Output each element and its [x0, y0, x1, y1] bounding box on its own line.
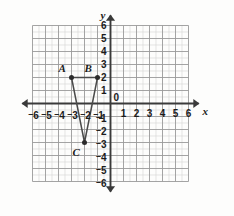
x-tick-label-1: 1	[121, 109, 127, 119]
x-tick-label-neg3: –3	[67, 109, 78, 121]
x-axis-label: x	[203, 106, 209, 117]
coordinate-plane: –6–5–4–3–2–1123456654321–1–2–3–4–5–60xyA…	[0, 0, 234, 216]
x-tick-label-6: 6	[186, 109, 192, 119]
x-tick-label-neg4: –4	[54, 109, 65, 121]
x-tick-label-5: 5	[173, 109, 179, 119]
x-tick-label-4: 4	[160, 109, 166, 119]
origin-label: 0	[114, 93, 120, 103]
vertex-point-a	[69, 75, 74, 80]
point-label-c: C	[73, 147, 80, 158]
y-tick-label-3: 3	[101, 60, 107, 70]
x-tick-label-neg5: –5	[41, 109, 52, 121]
y-tick-label-1: 1	[101, 86, 107, 96]
y-tick-label-neg1: –1	[96, 112, 107, 124]
axes	[22, 15, 200, 193]
y-tick-label-neg4: –4	[96, 151, 107, 163]
point-label-b: B	[85, 63, 92, 74]
x-tick-label-2: 2	[134, 109, 140, 119]
x-tick-label-neg6: –6	[28, 109, 39, 121]
y-tick-label-5: 5	[101, 34, 107, 44]
vertex-point-c	[82, 140, 87, 145]
x-tick-label-3: 3	[147, 109, 153, 119]
y-tick-label-neg2: –2	[96, 125, 107, 137]
y-tick-label-neg6: –6	[96, 177, 107, 189]
y-tick-label-6: 6	[101, 21, 107, 31]
vertex-point-b	[95, 75, 100, 80]
y-tick-label-neg5: –5	[96, 164, 107, 176]
y-tick-label-2: 2	[101, 73, 107, 83]
y-axis-label: y	[101, 10, 106, 21]
x-tick-label-neg2: –2	[80, 109, 91, 121]
point-label-a: A	[59, 63, 66, 74]
y-tick-label-neg3: –3	[96, 138, 107, 150]
y-tick-label-4: 4	[101, 47, 107, 57]
